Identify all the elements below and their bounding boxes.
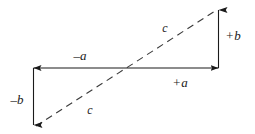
label-c-upper: c bbox=[162, 22, 167, 34]
vector-diagram: –a +a –b +b c c bbox=[0, 0, 255, 134]
label-minus-a: –a bbox=[74, 49, 87, 62]
label-plus-a: +a bbox=[172, 76, 187, 89]
label-c-lower: c bbox=[87, 104, 92, 116]
label-plus-b: +b bbox=[225, 29, 240, 42]
label-minus-b: –b bbox=[11, 93, 24, 106]
vector-diagram-canvas bbox=[0, 0, 255, 134]
